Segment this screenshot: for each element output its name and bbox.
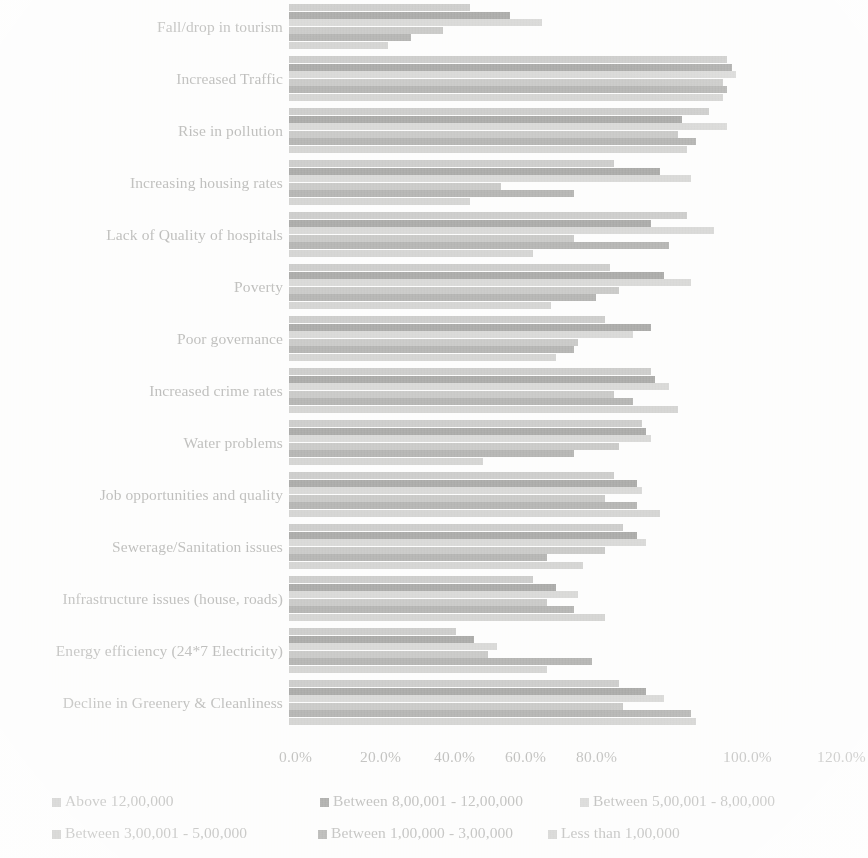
bar [289,71,736,78]
legend-label: Between 1,00,000 - 3,00,000 [331,824,513,842]
bar [289,487,642,494]
bar [289,279,691,286]
bar [289,56,727,63]
bar [289,443,619,450]
category-label: Energy efficiency (24*7 Electricity) [0,643,283,659]
legend-item[interactable]: Between 5,00,001 - 8,00,000 [580,792,775,810]
bar [289,168,660,175]
bar [289,450,574,457]
bar [289,680,619,687]
category-label: Poor governance [0,331,283,347]
bar [289,562,583,569]
bar [289,420,642,427]
bar [289,539,646,546]
bar [289,339,578,346]
bar [289,584,556,591]
bar [289,287,619,294]
bar [289,643,497,650]
bar-group [289,108,809,153]
bar [289,614,605,621]
bar [289,710,691,717]
category-label: Increased Traffic [0,71,283,87]
bar [289,227,714,234]
bar [289,435,651,442]
bar [289,406,678,413]
x-axis-tick-label: 100.0% [723,748,772,766]
bar [289,391,614,398]
bar [289,64,732,71]
bar-group [289,628,809,673]
x-axis-tick-label: 80.0% [576,748,617,766]
bar [289,547,605,554]
value-axis-labels: 0.0%20.0%40.0%60.0%80.0%100.0%120.0% [0,748,868,774]
bar [289,123,727,130]
bar [289,472,614,479]
bar [289,250,533,257]
bar [289,264,610,271]
bar [289,718,696,725]
bar [289,42,388,49]
bar-group [289,524,809,569]
bar [289,554,547,561]
bar [289,368,651,375]
category-label: Lack of Quality of hospitals [0,227,283,243]
x-axis-tick-label: 120.0% [817,748,866,766]
category-label: Decline in Greenery & Cleanliness [0,695,283,711]
legend-label: Between 3,00,001 - 5,00,000 [65,824,247,842]
x-axis-tick-label: 40.0% [434,748,475,766]
bar [289,324,651,331]
bar [289,138,696,145]
category-label: Fall/drop in tourism [0,19,283,35]
legend-item[interactable]: Less than 1,00,000 [548,824,680,842]
bar [289,480,637,487]
bar [289,398,633,405]
legend-item[interactable]: Between 3,00,001 - 5,00,000 [52,824,247,842]
legend-label: Less than 1,00,000 [561,824,680,842]
bar [289,302,551,309]
bar [289,131,678,138]
legend-label: Above 12,00,000 [65,792,174,810]
legend-item[interactable]: Above 12,00,000 [52,792,174,810]
bar [289,376,655,383]
bar [289,316,605,323]
category-label: Poverty [0,279,283,295]
bar [289,428,646,435]
bar-group [289,472,809,517]
bar [289,242,669,249]
bar [289,34,411,41]
bar [289,4,470,11]
bar [289,576,533,583]
bar [289,94,723,101]
legend-swatch-less-than-1-lakh [548,830,557,839]
bar [289,79,723,86]
bar [289,183,501,190]
bar [289,272,664,279]
bar [289,27,443,34]
bar [289,495,605,502]
bar [289,599,547,606]
bar [289,628,456,635]
grouped-bar-chart: Fall/drop in tourismIncreased TrafficRis… [0,0,868,858]
category-label: Increasing housing rates [0,175,283,191]
bar-group [289,316,809,361]
category-label: Rise in pollution [0,123,283,139]
bar [289,695,664,702]
chart-legend: Above 12,00,000Between 8,00,001 - 12,00,… [0,790,868,858]
bar [289,688,646,695]
legend-item[interactable]: Between 1,00,000 - 3,00,000 [318,824,513,842]
bar-group [289,680,809,725]
bar [289,591,578,598]
bar [289,212,687,219]
bar [289,160,614,167]
bar [289,235,574,242]
bar [289,658,592,665]
bar [289,666,547,673]
legend-item[interactable]: Between 8,00,001 - 12,00,000 [320,792,523,810]
legend-swatch-3-to-5-lakh [52,830,61,839]
x-axis-tick-label: 0.0% [279,748,312,766]
bar [289,458,483,465]
bar [289,354,556,361]
bar [289,146,687,153]
category-label: Increased crime rates [0,383,283,399]
bar [289,703,623,710]
